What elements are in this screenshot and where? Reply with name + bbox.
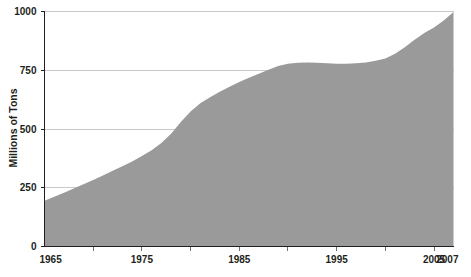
x-tick-label-1995: 1995 bbox=[326, 254, 349, 265]
x-axis-tick-labels: 196519751985199520052007 bbox=[40, 254, 459, 265]
y-tick-label-750: 750 bbox=[20, 65, 37, 76]
x-tick-label-1975: 1975 bbox=[131, 254, 154, 265]
x-tick-label-1985: 1985 bbox=[228, 254, 251, 265]
y-tick-label-0: 0 bbox=[31, 241, 37, 252]
x-tick-label-1965: 1965 bbox=[40, 254, 63, 265]
y-tick-label-500: 500 bbox=[20, 124, 37, 135]
y-tick-label-1000: 1000 bbox=[14, 6, 37, 17]
area-chart: 02505007501000 196519751985199520052007 … bbox=[0, 0, 471, 277]
x-tick-label-2007: 2007 bbox=[436, 254, 459, 265]
y-tick-label-250: 250 bbox=[20, 182, 37, 193]
y-axis-title: Millions of Tons bbox=[7, 88, 19, 167]
chart-canvas: 02505007501000 196519751985199520052007 … bbox=[0, 0, 471, 277]
